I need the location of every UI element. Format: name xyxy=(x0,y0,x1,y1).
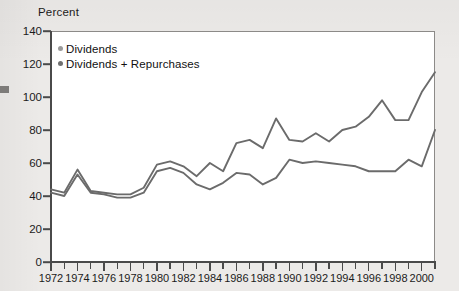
legend-item-label: Dividends xyxy=(66,43,117,55)
legend-item: Dividends xyxy=(58,41,200,56)
legend-marker-dot-icon xyxy=(58,46,63,51)
legend-marker-dot-icon xyxy=(58,61,63,66)
series-line xyxy=(51,72,435,194)
chart-legend: DividendsDividends + Repurchases xyxy=(58,41,200,71)
chart-figure: Percent 020406080100120140 1972197419761… xyxy=(0,0,459,291)
legend-item: Dividends + Repurchases xyxy=(58,56,200,71)
legend-item-label: Dividends + Repurchases xyxy=(66,58,200,70)
series-line xyxy=(51,130,435,198)
